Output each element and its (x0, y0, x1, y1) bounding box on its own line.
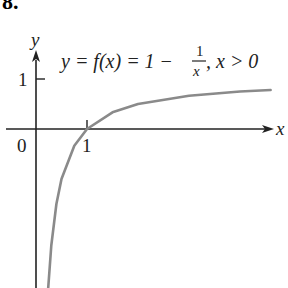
origin-label: 0 (17, 135, 27, 156)
problem-number: 8. (2, 0, 19, 14)
x-axis-label: x (275, 118, 285, 139)
equation-rhs: , x > 0 (206, 50, 258, 72)
function-curve (48, 90, 270, 288)
fraction-denominator: x (192, 63, 200, 79)
x-tick-1-label: 1 (82, 135, 92, 156)
function-graph: 8. y x 0 1 1 y = f(x) = 1 − 1 x , x > 0 (0, 0, 288, 288)
fraction-numerator: 1 (196, 43, 204, 59)
equation-lhs: y = f(x) = 1 − (59, 50, 173, 73)
y-tick-1-label: 1 (18, 69, 28, 90)
svg-text:y = f(x) = 1 −: y = f(x) = 1 − (59, 50, 173, 73)
equation-label: y = f(x) = 1 − 1 x , x > 0 (59, 43, 258, 79)
y-axis-label: y (29, 29, 40, 50)
